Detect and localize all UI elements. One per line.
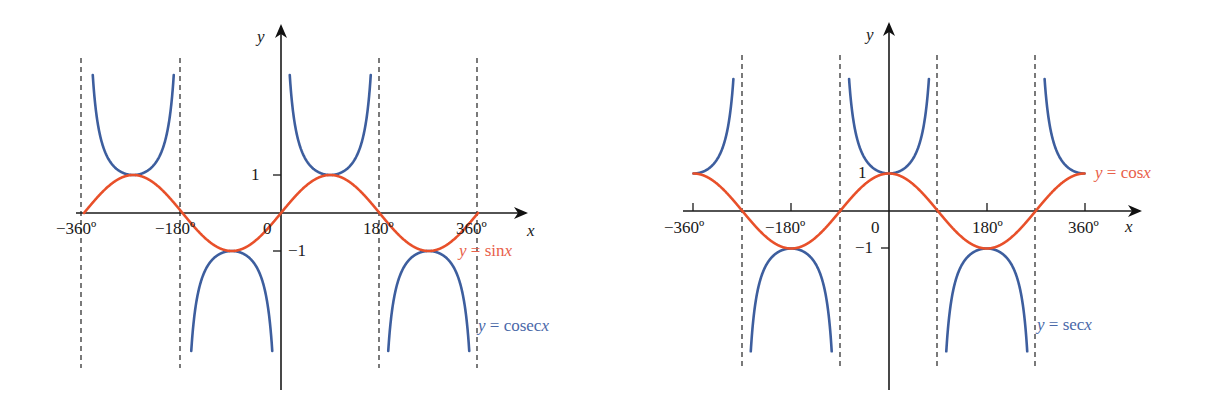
left-tick-label-neg-one: −1: [288, 241, 306, 260]
right-tick-label-zero: 0: [871, 218, 880, 237]
left-x-axis-label: x: [526, 221, 535, 240]
right-tick-label-360: 360º: [1068, 218, 1099, 237]
left-y-axis-label: y: [255, 27, 265, 46]
left-tick-label-neg360: −360º: [56, 219, 96, 238]
right-tick-label-neg360: −360º: [664, 218, 704, 237]
sin-label: y = sinx: [457, 241, 512, 260]
left-tick-label-one: 1: [251, 165, 260, 184]
right-chart: y x −360º −180º 0 180º 360º 1 −1 y = cos…: [664, 24, 1151, 390]
sec-label: y = secx: [1035, 315, 1092, 334]
right-x-axis-label: x: [1124, 217, 1133, 236]
right-tick-label-neg-one: −1: [855, 238, 873, 257]
right-tick-label-180: 180º: [972, 218, 1003, 237]
left-chart: y x −360º −180º 0 180º 360º 1 −1 y = sin…: [56, 26, 549, 390]
chart-canvas: y x −360º −180º 0 180º 360º 1 −1 y = sin…: [0, 0, 1227, 399]
left-tick-label-180: 180º: [363, 219, 394, 238]
right-tick-label-neg180: −180º: [765, 218, 805, 237]
left-tick-label-neg180: −180º: [155, 219, 195, 238]
cosec-label: y = cosecx: [476, 316, 549, 335]
left-tick-label-zero: 0: [263, 219, 272, 238]
right-y-axis-label: y: [864, 25, 874, 44]
cos-label: y = cosx: [1093, 163, 1151, 182]
right-tick-label-one: 1: [858, 163, 867, 182]
left-tick-label-360: 360º: [456, 219, 487, 238]
